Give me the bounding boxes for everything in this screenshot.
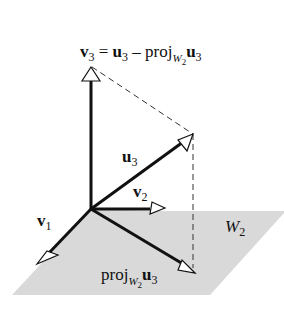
dashed-line-v3-to-u3: [92, 67, 193, 134]
gram-schmidt-diagram: v3 = u3 – projW2u3 u3 v2 v1 W2 projW2u3: [0, 0, 284, 317]
diagram-canvas: v3 = u3 – projW2u3 u3 v2 v1 W2 projW2u3: [0, 0, 284, 317]
u3-label: u3: [122, 147, 137, 169]
equation-label: v3 = u3 – projW2u3: [80, 42, 202, 67]
v1-label: v1: [37, 211, 52, 233]
v2-label: v2: [133, 182, 148, 204]
u3-arrowhead-icon: [178, 134, 193, 151]
v3-arrowhead-icon: [82, 67, 100, 81]
